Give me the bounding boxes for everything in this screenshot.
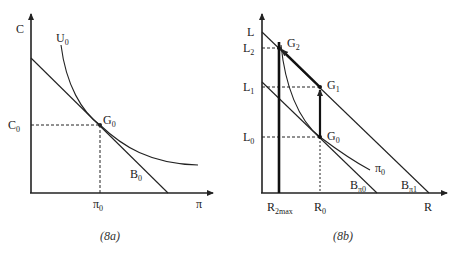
x-axis-label: π xyxy=(196,197,202,211)
figure-8b: L R L2 L1 L0 G2 G1 G0 π0 Bπ0 Bπ1 R2max R… xyxy=(243,14,447,243)
point-g2 xyxy=(277,46,281,50)
figure-8a: C π U0 B0 G0 C0 π0 (8a) xyxy=(8,14,213,243)
l0-tick-label: L0 xyxy=(243,130,254,146)
l2-tick-label: L2 xyxy=(243,41,254,57)
caption-8a: (8a) xyxy=(100,229,120,243)
g0-label: G0 xyxy=(103,113,116,129)
bpi1-label: Bπ1 xyxy=(401,178,417,194)
caption-8b: (8b) xyxy=(333,229,353,243)
g2-label: G2 xyxy=(287,36,300,52)
g1-label: G1 xyxy=(327,78,340,94)
indifference-curve-u0 xyxy=(61,45,198,165)
l1-tick-label: L1 xyxy=(243,80,254,96)
r0-tick-label: R0 xyxy=(314,200,326,216)
y-axis-label: L xyxy=(247,25,254,39)
y-axis-label: C xyxy=(16,22,24,36)
pi0-curve-label: π0 xyxy=(375,161,385,177)
u0-label: U0 xyxy=(56,31,69,47)
g0-label: G0 xyxy=(327,129,340,145)
b0-label: B0 xyxy=(130,167,142,183)
r2max-tick-label: R2max xyxy=(267,200,293,216)
point-g0 xyxy=(98,123,102,127)
c0-tick-label: C0 xyxy=(8,118,20,134)
x-axis-label: R xyxy=(424,200,432,214)
point-g1 xyxy=(318,85,322,89)
pi0-tick-label: π0 xyxy=(93,197,103,213)
point-g0 xyxy=(318,135,322,139)
